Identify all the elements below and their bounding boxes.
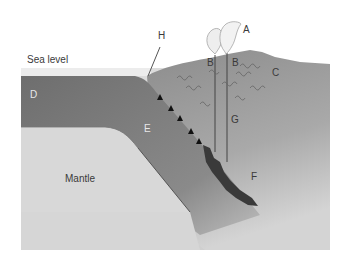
diagram-canvas: [0, 0, 344, 269]
label-H: H: [158, 31, 165, 41]
label-sea-level: Sea level: [27, 55, 68, 65]
eruption-plume-right: [220, 22, 241, 54]
label-B-right: B: [232, 58, 239, 68]
label-A: A: [243, 25, 250, 35]
label-B-left: B: [207, 58, 214, 68]
label-C: C: [272, 68, 279, 78]
label-E: E: [144, 124, 151, 134]
mantle-lower: [21, 212, 200, 250]
label-G: G: [231, 115, 239, 125]
sea-band: [21, 68, 151, 76]
label-mantle: Mantle: [65, 174, 95, 184]
label-D: D: [30, 90, 37, 100]
label-F: F: [251, 172, 257, 182]
